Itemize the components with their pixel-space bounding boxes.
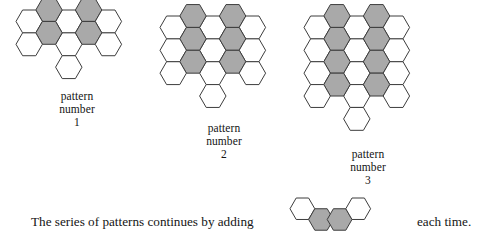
hexagon-unshaded [200,85,226,108]
addend-hexagon-figure [288,196,416,248]
hexagon-unshaded [56,56,82,79]
pattern-3-caption-number: 3 [302,174,434,187]
addend-figure-wrapper [288,196,416,248]
pattern-2-hexagon-diagram [158,14,288,126]
pattern-2-caption-number: 2 [158,148,290,161]
pattern-2-caption-line-2: number [158,135,290,148]
hexagon-unshaded [344,107,370,130]
pattern-group-2: pattern number 2 [158,14,288,126]
pattern-2-caption: pattern number 2 [158,122,290,162]
pattern-3-caption-line-1: pattern [302,148,434,161]
pattern-3-caption-line-2: number [302,161,434,174]
figure-canvas: pattern number 1 pattern number 2 patter… [0,0,478,248]
pattern-3-caption: pattern number 3 [302,148,434,188]
continuation-sentence-row: The series of patterns continues by addi… [0,196,478,248]
pattern-1-caption: pattern number 1 [14,90,140,130]
sentence-lead-text: The series of patterns continues by addi… [31,214,254,230]
pattern-group-3: pattern number 3 [302,14,434,154]
pattern-1-caption-line-1: pattern [14,90,140,103]
sentence-tail-text: each time. [417,214,471,230]
pattern-2-caption-line-1: pattern [158,122,290,135]
pattern-1-hexagon-diagram [14,8,144,92]
pattern-1-caption-line-2: number [14,103,140,116]
pattern-group-1: pattern number 1 [14,8,144,92]
pattern-1-caption-number: 1 [14,116,140,129]
pattern-3-hexagon-diagram [302,14,434,154]
